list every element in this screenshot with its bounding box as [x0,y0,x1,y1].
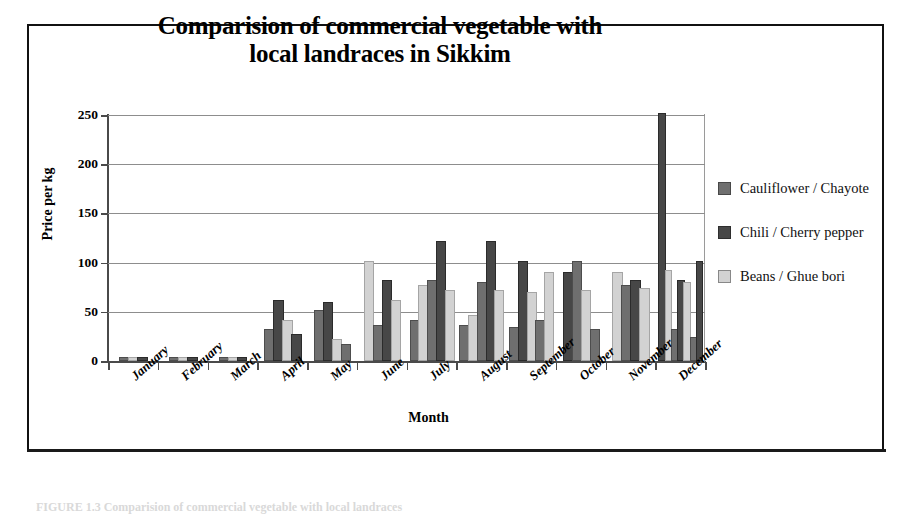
y-axis-tick-label: 0 [52,353,98,369]
bar-group-september [506,115,556,361]
y-axis-tick-label: 100 [52,255,98,271]
figure-frame-shadow [27,449,886,452]
bar-group-may [307,115,357,361]
legend-item-2: Beans / Ghue bori [718,254,888,298]
y-axis-tick-mark [101,263,108,265]
x-axis-title: Month [0,410,857,426]
legend-swatch-icon [718,182,731,195]
chart-legend: Cauliflower / ChayoteChili / Cherry pepp… [718,166,888,298]
bar-group-march [208,115,258,361]
x-axis-tick-mark [108,362,110,370]
y-axis-tick-label: 50 [52,304,98,320]
y-axis-tick-label: 150 [52,205,98,221]
legend-label: Beans / Ghue bori [740,268,845,285]
bar-group-july [407,115,457,361]
y-axis-tick-mark [101,213,108,215]
y-axis-tick-mark [101,164,108,166]
bar-group-april [257,115,307,361]
x-axis-tick-mark [456,362,458,370]
y-axis-tick-mark [101,312,108,314]
legend-label: Cauliflower / Chayote [740,180,869,197]
x-axis-tick-labels: JanuaryFebruaryMarchAprilMayJuneJulyAugu… [108,372,728,442]
y-axis-tick-label: 200 [52,156,98,172]
bar-group-january [108,115,158,361]
legend-swatch-icon [718,270,731,283]
chart-title-line-2: local landraces in Sikkim [60,40,700,68]
plot-area [108,115,705,361]
y-axis-tick-labels: 050100150200250 [48,115,98,361]
bar-group-november [606,115,656,361]
legend-item-0: Cauliflower / Chayote [718,166,888,210]
chart-title-line-1: Comparision of commercial vegetable with [60,12,700,40]
chart-title: Comparision of commercial vegetable with… [60,12,700,68]
y-axis-tick-label: 250 [52,107,98,123]
legend-item-1: Chili / Cherry pepper [718,210,888,254]
y-axis-tick-mark [101,115,108,117]
legend-label: Chili / Cherry pepper [740,224,864,241]
bar [391,300,401,361]
bar-group-february [158,115,208,361]
bar-group-june [357,115,407,361]
bar-group-october [556,115,606,361]
bar [445,290,455,361]
legend-swatch-icon [718,226,731,239]
x-axis-tick-mark [357,362,359,370]
bar-group-august [456,115,506,361]
figure-caption: FIGURE 1.3 Comparision of commercial veg… [36,500,636,514]
bar-group-december [655,115,705,361]
y-axis-tick-mark [101,361,108,363]
